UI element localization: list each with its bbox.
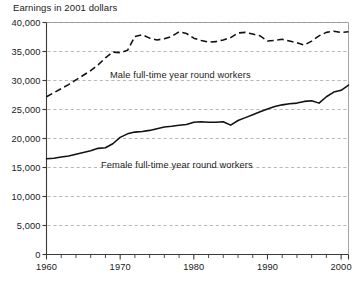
x-tick-label-1970: 1970 <box>110 262 131 272</box>
x-tick-label-1960: 1960 <box>36 262 57 272</box>
series-label-male: Male full-time year round workers <box>110 70 251 80</box>
y-axis-ticks <box>43 23 47 255</box>
y-tick-label-30000: 30,000 <box>11 76 40 86</box>
x-tick-label-2000: 2000 <box>331 262 352 272</box>
x-axis-ticks <box>47 255 349 260</box>
series-line-female <box>47 85 349 159</box>
earnings-line-chart-figure: Earnings in 2001 dollars 05,00010,00015,… <box>0 0 359 287</box>
x-tick-label-1980: 1980 <box>183 262 204 272</box>
series-label-female: Female full-time year round workers <box>101 160 253 170</box>
y-tick-label-20000: 20,000 <box>11 134 40 144</box>
gridlines-group <box>48 23 349 226</box>
chart-plot-area: 05,00010,00015,00020,00025,00030,00035,0… <box>0 0 359 287</box>
y-tick-label-25000: 25,000 <box>11 105 40 115</box>
y-tick-label-35000: 35,000 <box>11 47 40 57</box>
series-line-male <box>47 31 349 97</box>
y-tick-label-15000: 15,000 <box>11 163 40 173</box>
y-axis-tick-labels: 05,00010,00015,00020,00025,00030,00035,0… <box>11 18 40 260</box>
data-series-group <box>47 31 349 159</box>
x-axis-tick-labels: 19601970198019902000 <box>36 262 352 272</box>
x-tick-label-1990: 1990 <box>257 262 278 272</box>
caption-fragment <box>6 279 353 286</box>
y-tick-label-0: 0 <box>35 250 40 260</box>
y-tick-label-5000: 5,000 <box>17 221 41 231</box>
y-tick-label-40000: 40,000 <box>11 18 40 28</box>
y-tick-label-10000: 10,000 <box>11 192 40 202</box>
